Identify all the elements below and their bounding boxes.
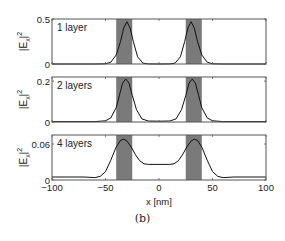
panel-label: 1 layer	[57, 22, 88, 33]
panel-label: 4 layers	[57, 138, 92, 149]
x-tick-label: 50	[207, 182, 218, 193]
x-tick-label: −100	[41, 182, 62, 193]
shaded-layer-band	[116, 135, 132, 180]
figure-panel-b: 00.51 layer|Ex|200.22 layers|Ex|200.064 …	[0, 0, 285, 241]
y-axis-label: |Ex|2	[16, 148, 31, 167]
shaded-layer-band	[186, 135, 202, 180]
shaded-layer-band	[186, 19, 202, 64]
x-tick-label: −50	[97, 182, 113, 193]
subplot-stack: 00.51 layer|Ex|200.22 layers|Ex|200.064 …	[16, 14, 266, 186]
subplot-1: 00.51 layer|Ex|2	[16, 14, 266, 70]
y-tick-label: 0	[45, 117, 50, 128]
x-tick-label: 0	[156, 182, 161, 193]
y-tick-label: 0.06	[32, 139, 51, 150]
y-tick-label: 0.5	[37, 14, 50, 25]
y-tick-label: 0	[45, 59, 50, 70]
subplot-3: 00.064 layers|Ex|2	[16, 135, 266, 186]
shaded-layer-band	[116, 19, 132, 64]
y-axis-label: |Ex|2	[16, 32, 31, 51]
x-axis: −100−50050100	[41, 182, 274, 193]
figure-caption: (b)	[0, 212, 285, 225]
x-tick-label: 100	[258, 182, 274, 193]
y-axis-label: |Ex|2	[16, 90, 31, 109]
x-axis-label: x [nm]	[146, 196, 172, 207]
subplot-2: 00.22 layers|Ex|2	[16, 76, 266, 128]
y-tick-label: 0.2	[37, 76, 50, 87]
panel-label: 2 layers	[57, 80, 92, 91]
